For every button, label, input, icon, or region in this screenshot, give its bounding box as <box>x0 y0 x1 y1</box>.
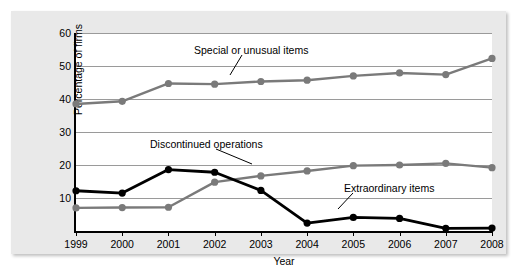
ytick-label-60: 60 <box>45 28 71 38</box>
annotation-leaders <box>76 33 492 231</box>
xtick-2001 <box>168 231 169 236</box>
xtick-label-2008: 2008 <box>472 239 512 250</box>
chart-figure: 60 50 40 30 20 10 Percentage of firms 19… <box>0 0 517 276</box>
xtick-label-2007: 2007 <box>426 239 466 250</box>
xtick-2000 <box>122 231 123 236</box>
ytick-label-50: 50 <box>45 61 71 71</box>
ytick-label-20: 20 <box>45 160 71 170</box>
xtick-label-2003: 2003 <box>241 239 281 250</box>
x-axis-label: Year <box>76 255 492 267</box>
ytick-label-30: 30 <box>45 127 71 137</box>
xtick-label-2000: 2000 <box>102 239 142 250</box>
xtick-2006 <box>400 231 401 236</box>
ytick-label-10: 10 <box>45 193 71 203</box>
ytick-label-40: 40 <box>45 94 71 104</box>
xtick-1999 <box>76 231 77 236</box>
xtick-2003 <box>261 231 262 236</box>
chart-panel: 60 50 40 30 20 10 Percentage of firms 19… <box>11 11 506 254</box>
xtick-label-2001: 2001 <box>148 239 188 250</box>
xtick-label-2004: 2004 <box>287 239 327 250</box>
xtick-2004 <box>307 231 308 236</box>
annotation-discontinued-operations: Discontinued operations <box>150 138 263 150</box>
annotation-extraordinary-items: Extraordinary items <box>344 182 434 194</box>
xtick-label-2002: 2002 <box>195 239 235 250</box>
plot-area: 60 50 40 30 20 10 Percentage of firms 19… <box>74 33 492 233</box>
xtick-label-1999: 1999 <box>56 239 96 250</box>
xtick-2005 <box>353 231 354 236</box>
xtick-2002 <box>215 231 216 236</box>
xtick-label-2006: 2006 <box>380 239 420 250</box>
xtick-2008 <box>492 231 493 236</box>
xtick-label-2005: 2005 <box>333 239 373 250</box>
annotation-special-or-unusual-items: Special or unusual items <box>194 44 308 56</box>
